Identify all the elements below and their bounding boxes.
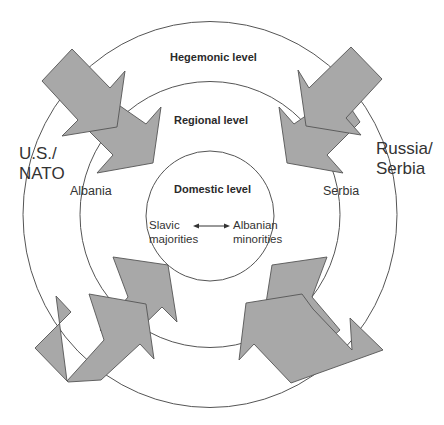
domestic-level-label: Domestic level [174,184,251,195]
arrow-outer-bottom-left-icon [35,294,154,382]
domestic-ring [146,151,274,281]
arrow-outer-top-right-icon [298,47,382,135]
albanian-line-1: Albanian [233,218,282,232]
russia-serbia-line-2: Serbia [376,159,433,179]
regional-level-label: Regional level [174,115,248,126]
double-headed-arrow-icon [193,224,230,229]
russia-serbia-label: Russia/ Serbia [376,139,433,179]
us-nato-label: U.S./ NATO [19,144,65,184]
nested-levels-diagram: Hegemonic level Regional level Domestic … [0,0,444,425]
us-nato-line-1: U.S./ [19,144,65,164]
diagram-canvas [0,0,444,425]
russia-serbia-line-1: Russia/ [376,139,433,159]
arrow-outer-bottom-right-icon [239,294,383,383]
slavic-majorities-label: Slavic majorities [149,218,198,246]
slavic-line-1: Slavic [149,218,198,232]
slavic-line-2: majorities [149,232,198,246]
hegemonic-level-label: Hegemonic level [170,52,257,63]
arrow-group-bottom-left [35,257,177,382]
albanian-line-2: minorities [233,232,282,246]
arrow-group-bottom-right [239,257,383,383]
albania-label: Albania [70,185,112,198]
arrow-group-top-right [279,47,382,173]
serbia-label: Serbia [323,185,359,198]
arrow-outer-top-left-icon [42,49,125,136]
us-nato-line-2: NATO [19,164,65,184]
albanian-minorities-label: Albanian minorities [233,218,282,246]
